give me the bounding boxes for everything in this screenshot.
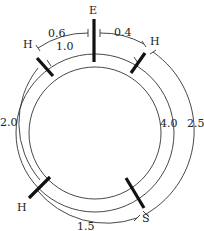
distance-label-0-4: 0.4 bbox=[114, 26, 132, 39]
marker-s bbox=[126, 178, 144, 208]
distance-label-2-0: 2.0 bbox=[0, 116, 18, 129]
arc-h3-s bbox=[37, 190, 137, 223]
arc-h2-s-outer bbox=[146, 52, 194, 214]
marker-h1 bbox=[37, 58, 53, 76]
circular-map-diagram: E H H H S 0.6 0.4 1.0 2.0 4.0 2.5 1.5 bbox=[0, 0, 204, 231]
node-label-e: E bbox=[89, 4, 97, 17]
node-label-h1: H bbox=[23, 38, 33, 51]
tick bbox=[47, 60, 51, 66]
tick bbox=[134, 215, 140, 221]
distance-label-2-5: 2.5 bbox=[187, 117, 204, 130]
tick bbox=[36, 45, 40, 51]
node-label-s: S bbox=[142, 212, 150, 225]
node-label-h2: H bbox=[150, 35, 160, 48]
node-label-h3: H bbox=[17, 201, 27, 214]
distance-label-1-5: 1.5 bbox=[77, 220, 95, 231]
distance-label-1-0: 1.0 bbox=[56, 40, 74, 53]
distance-label-0-6: 0.6 bbox=[48, 27, 66, 40]
tick bbox=[142, 41, 146, 47]
distance-label-4-0: 4.0 bbox=[160, 117, 178, 130]
